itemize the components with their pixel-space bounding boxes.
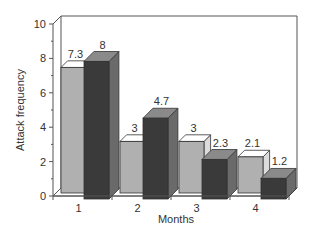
bar-value-label: 1.2: [272, 155, 287, 167]
bar-front: [120, 141, 145, 193]
bar-value-label: 7.3: [68, 48, 83, 60]
bars: 7.3834.732.32.11.2: [61, 39, 296, 200]
bar-value-label: 2.3: [213, 137, 228, 149]
y-tick-label: 6: [40, 87, 46, 99]
bar-front: [61, 67, 86, 193]
x-tick-label: 4: [252, 202, 258, 214]
bar-value-label: 2.1: [245, 137, 260, 149]
bar: 4.7: [143, 95, 178, 199]
y-tick-label: 4: [40, 121, 46, 133]
bar-front: [238, 157, 263, 193]
bar-front: [179, 141, 204, 193]
bar-front: [84, 61, 109, 199]
bar-value-label: 3: [190, 122, 196, 134]
bar-front: [202, 159, 227, 199]
x-tick-label: 2: [134, 202, 140, 214]
y-axis-label: Attack frequency: [14, 69, 26, 151]
y-tick-label: 2: [40, 156, 46, 168]
bar-value-label: 8: [99, 39, 105, 51]
bar: 8: [84, 39, 119, 200]
x-axis-label: Months: [158, 213, 195, 225]
y-tick-label: 10: [34, 18, 46, 30]
bar-value-label: 4.7: [154, 95, 169, 107]
bar-side: [168, 108, 178, 199]
bar-chart: 0246810 7.3834.732.32.11.2 1234 Attack f…: [0, 0, 315, 239]
bar-side: [109, 52, 119, 200]
x-tick-label: 1: [75, 202, 81, 214]
wall-top-edge: [53, 16, 61, 24]
x-tick-label: 3: [193, 202, 199, 214]
bar-front: [143, 118, 168, 199]
bar-value-label: 3: [131, 122, 137, 134]
y-tick-label: 0: [40, 190, 46, 202]
y-tick-label: 8: [40, 52, 46, 64]
y-axis: 0246810: [34, 18, 53, 202]
